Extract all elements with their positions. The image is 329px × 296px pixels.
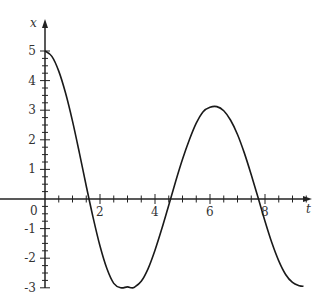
- x-tick-label: 2: [96, 205, 104, 219]
- x-tick-labels: 2468: [96, 205, 269, 219]
- y-axis-label: x: [30, 16, 37, 30]
- y-tick-label: 1: [28, 162, 36, 176]
- x-tick-label: 6: [206, 205, 214, 219]
- x-tick-label: 4: [151, 205, 159, 219]
- y-tick-label: 4: [28, 74, 36, 88]
- y-axis-arrow-icon: [42, 19, 48, 28]
- origin-label: 0: [30, 204, 38, 218]
- y-tick-label: -3: [24, 281, 36, 295]
- y-tick-label: 2: [28, 133, 36, 147]
- axis-ticks: [40, 51, 306, 288]
- y-tick-label: 5: [28, 44, 36, 58]
- data-line: [45, 51, 304, 288]
- y-tick-label: -2: [24, 251, 36, 265]
- y-tick-label: -1: [24, 222, 36, 236]
- chart-canvas: x t 0 2468 -3-2-112345: [0, 0, 329, 296]
- y-tick-labels: -3-2-112345: [24, 44, 36, 295]
- y-tick-label: 3: [28, 103, 36, 117]
- x-axis-label: t: [306, 202, 311, 216]
